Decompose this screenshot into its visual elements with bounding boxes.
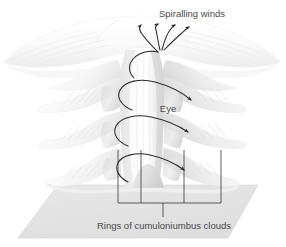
cloud-ring-shelves-right	[162, 78, 246, 187]
label-spiralling-winds: Spiralling winds	[159, 8, 225, 19]
label-rings-of-cumulonimbus-clouds: Rings of cumuloniumbus clouds	[97, 220, 231, 231]
cloud-ring-shelves-left	[38, 78, 122, 187]
label-eye: Eye	[160, 103, 176, 114]
hurricane-diagram: Spiralling winds Eye Rings of cumulonium…	[0, 0, 286, 247]
eye-column	[120, 46, 164, 189]
